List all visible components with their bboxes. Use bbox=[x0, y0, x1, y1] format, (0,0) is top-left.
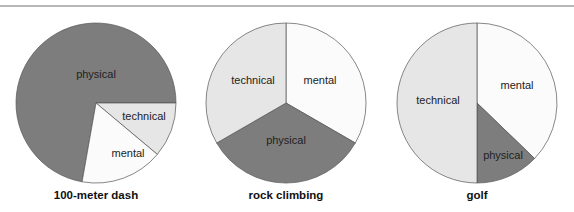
label-physical: physical bbox=[76, 68, 116, 80]
label-technical: technical bbox=[122, 110, 165, 122]
pie-chart-100m-dash: physical technical mental 100-meter dash bbox=[16, 23, 176, 201]
label-technical: technical bbox=[416, 94, 459, 106]
label-physical: physical bbox=[266, 134, 306, 146]
chart-title: rock climbing bbox=[249, 189, 324, 201]
label-mental: mental bbox=[303, 74, 336, 86]
pie-charts: physical technical mental 100-meter dash… bbox=[0, 0, 574, 212]
pie-chart-golf: mental technical physical golf bbox=[397, 23, 557, 201]
chart-title: 100-meter dash bbox=[54, 189, 138, 201]
label-mental: mental bbox=[111, 147, 144, 159]
label-physical: physical bbox=[483, 149, 523, 161]
chart-title: golf bbox=[466, 189, 487, 201]
label-mental: mental bbox=[500, 79, 533, 91]
label-technical: technical bbox=[231, 74, 274, 86]
pie-chart-rock-climbing: technical mental physical rock climbing bbox=[206, 23, 366, 201]
